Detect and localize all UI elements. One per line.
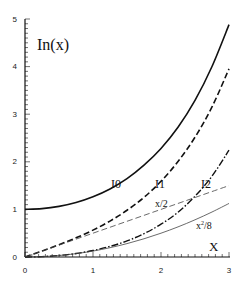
y-tick-2: 2: [13, 157, 18, 166]
y-tick-labels: 0 1 2 3 4 5: [13, 15, 18, 262]
label-i1: I1: [155, 177, 165, 191]
y-tick-3: 3: [13, 110, 18, 119]
y-tick-0: 0: [13, 253, 18, 262]
x-tick-0: 0: [23, 266, 28, 275]
curve-i2: [25, 150, 229, 257]
x-axis-title: X: [209, 239, 219, 254]
x-tick-3: 3: [227, 266, 232, 275]
x-tick-1: 1: [91, 266, 96, 275]
y-tick-5: 5: [13, 15, 18, 24]
y-tick-1: 1: [13, 205, 18, 214]
x-tick-2: 2: [159, 266, 164, 275]
x-tick-labels: 0 1 2 3: [23, 266, 232, 275]
bessel-chart: 0 1 2 3 4 5 0 1 2 3 In(x) I0 I1 I2 x/2 x…: [0, 0, 244, 282]
y-axis-title: In(x): [37, 36, 69, 54]
label-i2: I2: [201, 177, 211, 191]
label-x2-over-8: x2/8: [196, 220, 212, 231]
label-half-x: x/2: [155, 198, 168, 209]
label-i0: I0: [111, 177, 121, 191]
y-tick-4: 4: [13, 62, 18, 71]
